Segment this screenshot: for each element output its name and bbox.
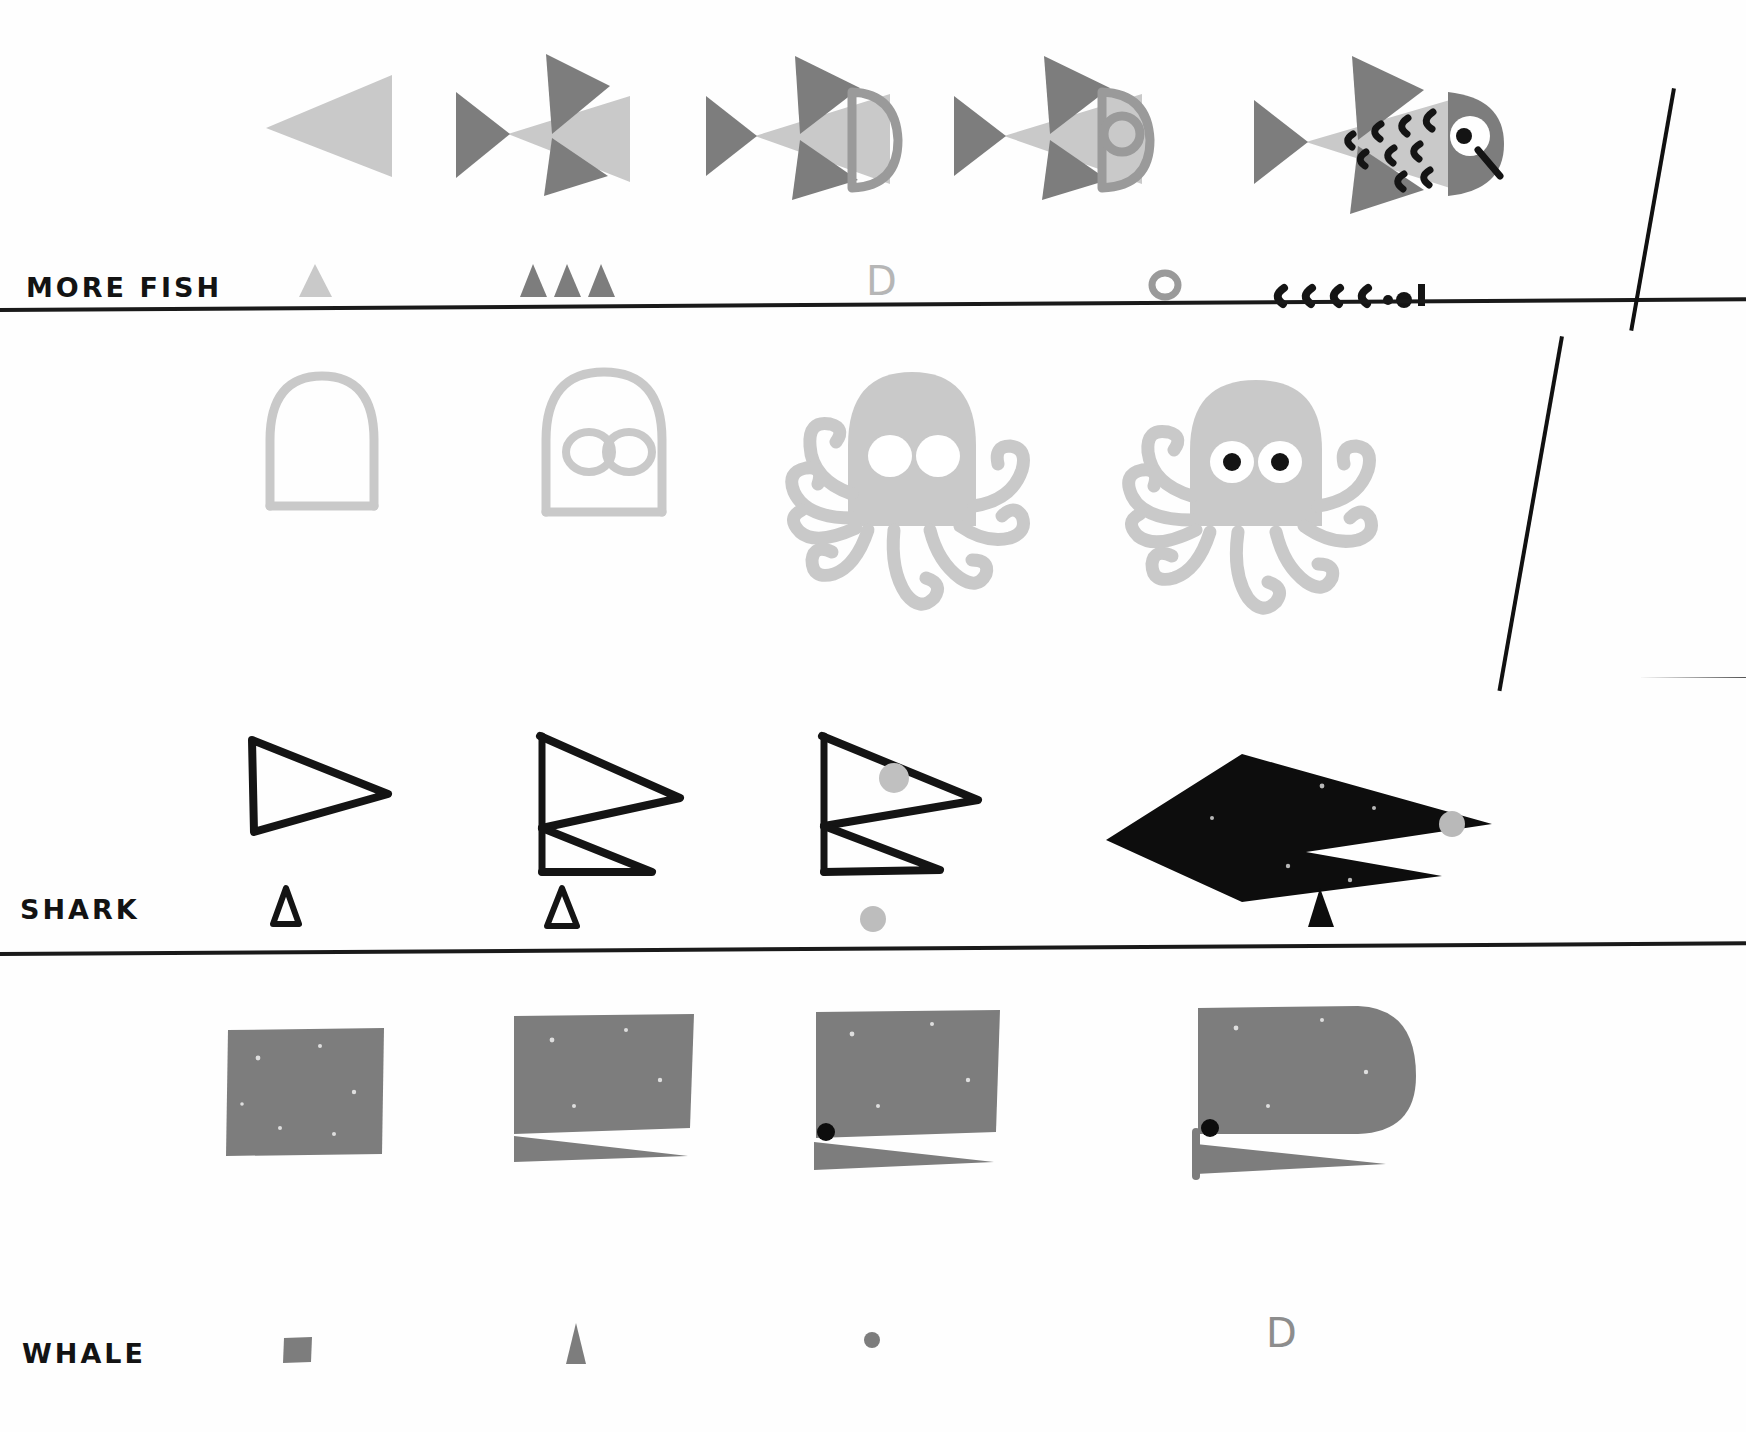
row-whale: WHALE D	[0, 958, 1746, 1432]
shark-triangle-tail-icon	[528, 730, 688, 880]
row-shark: SHARK	[0, 690, 1746, 960]
legend-more-fish-3: D	[866, 258, 897, 304]
drawing-sheet: MORE FISH D	[0, 0, 1746, 1432]
fish-body-triangle-icon	[262, 72, 402, 182]
fish-head-outline-icon	[700, 48, 930, 203]
shark-filled-icon	[1092, 746, 1512, 906]
whale-block-jaw-icon	[508, 1010, 708, 1170]
legend-scales-dot-line-icon	[1268, 270, 1428, 312]
whale-block-icon	[222, 1024, 392, 1164]
whale-finished-icon	[1190, 1002, 1430, 1182]
legend-whale-4: D	[1266, 1310, 1297, 1356]
shark-triangle-outline-icon	[238, 732, 398, 842]
row-label-whale: WHALE	[22, 1338, 146, 1369]
legend-light-triangle-icon	[296, 262, 336, 300]
legend-gray-triangle-icon	[558, 1320, 594, 1368]
legend-gray-dot-icon	[856, 902, 890, 936]
shark-with-eye-icon	[810, 730, 990, 880]
row-label-shark: SHARK	[20, 894, 140, 925]
row-divider-3	[0, 941, 1746, 956]
fish-finished-icon	[1248, 48, 1518, 218]
whale-with-eye-icon	[808, 1006, 1018, 1176]
legend-gray-square-icon	[280, 1334, 318, 1366]
octopus-body-tentacles-icon	[760, 346, 1060, 626]
row-octopus: OCTOPUS D SSSS SSSS	[0, 318, 1746, 678]
legend-hollow-triangle-icon	[540, 884, 584, 930]
row-more-fish: MORE FISH D	[0, 0, 1746, 312]
legend-small-gray-dot-icon	[858, 1326, 886, 1354]
row-divider-2	[0, 677, 1746, 678]
legend-solid-triangle-icon	[1300, 886, 1340, 930]
fish-with-eye-icon	[946, 46, 1196, 206]
octopus-finished-icon	[1086, 358, 1406, 628]
octopus-dome-eyes-icon	[532, 360, 682, 525]
legend-three-triangles-icon	[518, 262, 618, 300]
fish-with-fins-icon	[448, 48, 638, 198]
octopus-dome-outline-icon	[258, 366, 388, 516]
row-label-more-fish: MORE FISH	[26, 272, 222, 303]
legend-hollow-triangle-icon	[266, 884, 306, 928]
legend-small-ring-icon	[1146, 268, 1186, 302]
